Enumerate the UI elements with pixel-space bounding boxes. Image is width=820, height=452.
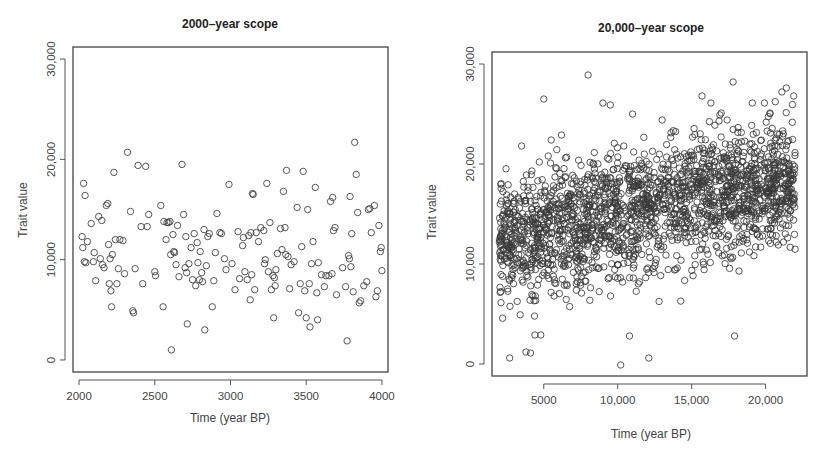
y-tick-label: 20,000: [464, 146, 476, 181]
x-tick-label: 15,000: [674, 394, 709, 406]
x-tick-label: 4000: [369, 390, 395, 402]
plot-frame: [73, 47, 388, 372]
y-tick-label: 10,000: [464, 246, 476, 281]
y-tick-label: 30,000: [464, 46, 476, 81]
x-tick-label: 5000: [531, 394, 557, 406]
figure: 2000–year scope 010,00020,00030,000 2000…: [0, 0, 820, 452]
y-axis-label: Trait value: [425, 184, 439, 240]
y-tick-label: 0: [45, 357, 57, 363]
chart-title: 20,000–year scope: [598, 21, 704, 35]
y-axis: 010,00020,00030,000: [45, 41, 65, 363]
x-axis: 20002500300035004000: [66, 380, 394, 402]
chart-title: 2000–year scope: [182, 17, 278, 31]
scatter-points: [79, 139, 385, 353]
x-tick-label: 10,000: [600, 394, 635, 406]
y-tick-label: 10,000: [45, 242, 57, 277]
x-tick-label: 3500: [293, 390, 319, 402]
x-tick-label: 2000: [66, 390, 92, 402]
x-tick-label: 3000: [218, 390, 244, 402]
x-tick-label: 2500: [142, 390, 168, 402]
y-axis: 010,00020,00030,000: [464, 46, 484, 367]
x-axis-label: Time (year BP): [190, 411, 270, 425]
y-axis-label: Trait value: [16, 182, 30, 238]
panel-20000-year-scope: 20,000–year scope 010,00020,00030,000 50…: [425, 21, 807, 441]
y-tick-label: 30,000: [45, 41, 57, 76]
x-tick-label: 20,000: [748, 394, 783, 406]
x-axis: 500010,00015,00020,000: [531, 384, 783, 406]
x-axis-label: Time (year BP): [611, 427, 691, 441]
y-tick-label: 0: [464, 361, 476, 367]
y-tick-label: 20,000: [45, 142, 57, 177]
scatter-points: [496, 72, 798, 368]
panel-2000-year-scope: 2000–year scope 010,00020,00030,000 2000…: [16, 17, 395, 425]
